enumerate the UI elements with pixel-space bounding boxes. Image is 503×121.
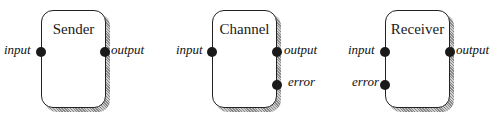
channel-error-port-icon — [272, 80, 282, 90]
sender-input-label: input — [4, 43, 31, 57]
receiver-output-port-icon — [445, 47, 455, 57]
receiver-input-label: input — [348, 43, 375, 57]
receiver-error-label: error — [352, 75, 379, 89]
sender-output-label: output — [111, 43, 144, 57]
sender-output-port-icon — [100, 47, 110, 57]
sender-title: Sender — [42, 21, 105, 38]
channel-input-label: input — [176, 43, 203, 57]
receiver-title: Receiver — [386, 21, 449, 38]
sender-box: Sender — [41, 10, 106, 108]
receiver-error-port-icon — [380, 80, 390, 90]
component-diagram: Sender input output Channel input output… — [0, 0, 503, 121]
channel-title: Channel — [213, 21, 276, 38]
channel-output-label: output — [284, 43, 317, 57]
receiver-box: Receiver — [385, 10, 450, 108]
channel-input-port-icon — [207, 47, 217, 57]
channel-error-label: error — [288, 75, 315, 89]
receiver-output-label: output — [456, 43, 489, 57]
sender-input-port-icon — [36, 47, 46, 57]
channel-output-port-icon — [272, 47, 282, 57]
receiver-input-port-icon — [380, 47, 390, 57]
channel-box: Channel — [212, 10, 277, 108]
